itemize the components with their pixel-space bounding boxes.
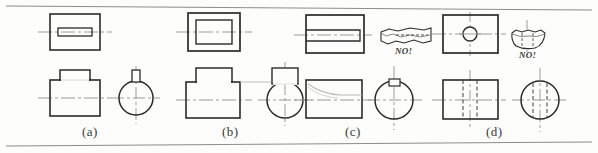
panel-d	[432, 12, 568, 132]
panel-c-side-view	[368, 66, 422, 130]
body-rectangle	[306, 80, 362, 118]
panel-b-side-view	[258, 62, 312, 126]
panel-c-top-view	[294, 15, 372, 53]
keyway-notch-rectangle	[389, 79, 400, 86]
panel-c-front-view	[294, 80, 372, 118]
panel-c	[294, 15, 431, 130]
panel-d-pictorial-incorrect	[512, 20, 545, 52]
panel-a-side-view	[112, 66, 160, 124]
faint-blend-curve-secondary	[308, 87, 338, 98]
raised-key-block	[196, 68, 232, 82]
panel-a-top-view	[38, 14, 112, 50]
torn-curved-block-outline	[512, 30, 545, 49]
outer-rectangle	[306, 15, 364, 53]
panel-d-front-view	[432, 70, 506, 130]
panel-a	[38, 14, 160, 124]
top-rule	[6, 6, 592, 10]
key-block-rectangle	[272, 68, 298, 84]
panel-d-top-view	[432, 12, 506, 56]
bottom-rule	[6, 142, 592, 146]
faint-blend-curve	[308, 84, 362, 95]
panel-b-front-view	[176, 68, 274, 118]
panel-c-pictorial-incorrect	[381, 28, 431, 44]
key-rectangle	[132, 70, 140, 82]
raised-key-block	[60, 70, 90, 80]
figure-root: (a) (b) (c) (d) NO! NO!	[0, 0, 598, 153]
panel-d-side-view	[512, 68, 568, 132]
panel-a-front-view	[38, 70, 112, 116]
panel-b-top-view	[176, 13, 252, 51]
panel-b	[176, 13, 312, 126]
engineering-drawing-figure	[0, 0, 598, 153]
